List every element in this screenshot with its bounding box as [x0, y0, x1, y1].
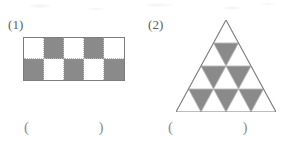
grid-cell [104, 38, 124, 59]
shaded-triangle [201, 66, 226, 89]
grid-cell [84, 38, 104, 59]
shaded-triangle [189, 89, 214, 112]
grid-cell [64, 59, 84, 80]
grid-cell [44, 38, 64, 59]
item-label-1: (1) [8, 18, 23, 31]
worksheet-page: (1) ( ) (2) [0, 0, 286, 152]
subdivided-triangle-figure [176, 20, 276, 112]
scan-noise-artifact [0, 0, 286, 14]
paren-close: ) [99, 120, 104, 135]
grid-cell [44, 59, 64, 80]
answer-blank-2[interactable]: ( ) [168, 120, 248, 135]
item-label-2: (2) [148, 18, 163, 31]
checkerboard-rectangle-figure [23, 37, 125, 81]
triangle-svg [176, 20, 276, 112]
shaded-triangle-group [189, 43, 264, 112]
paren-open: ( [24, 120, 29, 135]
shaded-triangle [214, 89, 239, 112]
shaded-triangle [226, 66, 251, 89]
grid-cell [64, 38, 84, 59]
shaded-triangle [214, 43, 239, 66]
grid-cell [104, 59, 124, 80]
grid-cell [84, 59, 104, 80]
paren-close: ) [243, 120, 248, 135]
grid-cell [24, 38, 44, 59]
paren-open: ( [168, 120, 173, 135]
grid-cell [24, 59, 44, 80]
shaded-triangle [239, 89, 264, 112]
answer-blank-1[interactable]: ( ) [24, 120, 104, 135]
